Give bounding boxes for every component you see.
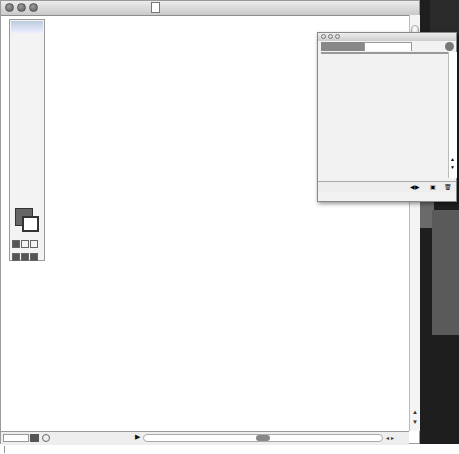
document-icon: [151, 2, 160, 13]
full-screen-menu-mode[interactable]: [21, 253, 29, 261]
panel-scroll-up[interactable]: ▲: [450, 156, 455, 162]
status-bar: ▶ ◂ ▸: [1, 431, 409, 445]
panel-scrollbar[interactable]: ▲ ▼: [448, 52, 457, 178]
panel-scroll-down[interactable]: ▼: [450, 164, 455, 170]
scroll-up-arrow[interactable]: ▲: [412, 409, 418, 415]
background-layers-panel: [432, 210, 459, 335]
panel-title-bar[interactable]: [318, 33, 456, 41]
divider: [4, 446, 5, 453]
background-window: [430, 0, 459, 35]
horizontal-scroll-arrows[interactable]: ◂ ▸: [386, 434, 394, 441]
minimize-button[interactable]: [17, 3, 26, 12]
close-button[interactable]: [5, 3, 14, 12]
scroll-down-arrow[interactable]: ▼: [412, 419, 418, 425]
horizontal-scroll-thumb[interactable]: [256, 435, 270, 441]
panel-footer: ◀▶ ▣ 🗑: [318, 181, 456, 192]
break-link-icon[interactable]: ◀▶: [410, 183, 420, 190]
stroke-swatch[interactable]: [22, 216, 39, 232]
screen-mode-buttons: [12, 247, 42, 256]
graphic-styles-panel: ▲ ▼ ◀▶ ▣ 🗑: [317, 32, 457, 202]
window-title: [151, 2, 162, 14]
tools-panel: [9, 19, 45, 261]
panel-minimize-button[interactable]: [328, 34, 333, 39]
zoom-button[interactable]: [29, 3, 38, 12]
trash-icon[interactable]: 🗑: [444, 183, 452, 190]
new-style-icon[interactable]: ▣: [430, 183, 436, 190]
graphic-styles-grid: [321, 52, 449, 54]
color-mode-buttons: [12, 234, 42, 243]
version-cue-icon[interactable]: [42, 434, 50, 442]
panel-zoom-button[interactable]: [335, 34, 340, 39]
title-bar[interactable]: [1, 1, 419, 16]
panel-menu-icon[interactable]: [445, 42, 454, 51]
zoom-dropdown-button[interactable]: [30, 434, 39, 442]
panel-close-button[interactable]: [321, 34, 326, 39]
zoom-level-field[interactable]: [3, 434, 29, 442]
status-menu-arrow[interactable]: ▶: [135, 433, 140, 441]
tab-graphic-styles[interactable]: [364, 42, 412, 51]
horizontal-scrollbar[interactable]: [143, 434, 383, 442]
full-screen-mode[interactable]: [30, 253, 38, 261]
tab-appearance[interactable]: [321, 42, 365, 51]
illustrator-logo[interactable]: [11, 21, 43, 33]
standard-screen-mode[interactable]: [12, 253, 20, 261]
